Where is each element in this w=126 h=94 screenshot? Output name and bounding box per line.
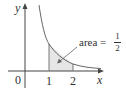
fraction-denominator: 2 xyxy=(115,44,120,53)
x-axis-label: x xyxy=(97,74,102,86)
area-annotation: area = xyxy=(79,37,106,48)
tick-label-1: 1 xyxy=(46,75,52,87)
y-axis-label: y xyxy=(15,2,20,14)
y-axis-arrow-icon xyxy=(23,3,28,9)
annotation-arrow xyxy=(60,47,77,61)
tick-label-2: 2 xyxy=(70,75,76,87)
area-fraction: 1 2 xyxy=(114,32,121,53)
origin-label: 0 xyxy=(15,74,21,86)
fraction-numerator: 1 xyxy=(115,32,120,41)
